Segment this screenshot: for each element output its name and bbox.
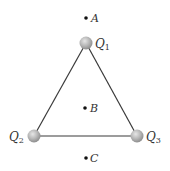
charge-q3-letter: Q: [146, 130, 156, 144]
point-dot-icon: [83, 106, 87, 110]
point-dot-icon: [84, 16, 88, 20]
charge-q1: Q1: [80, 37, 110, 53]
triangle-edges: [34, 43, 137, 136]
point-b-label: B: [89, 102, 98, 115]
point-dot-icon: [84, 156, 88, 160]
charge-q3-subscript: 3: [156, 136, 161, 145]
point-a: A: [84, 12, 99, 25]
charge-sphere-icon: [131, 130, 144, 143]
charge-triangle-diagram: Q1 Q2 Q3 A B C: [0, 0, 170, 171]
point-c-label: C: [90, 152, 99, 165]
charge-q1-letter: Q: [95, 37, 105, 51]
charge-q1-subscript: 1: [105, 43, 110, 52]
edge-q1-q2: [34, 43, 86, 136]
edge-q3-q1: [86, 43, 137, 136]
point-b: B: [83, 102, 98, 115]
charge-q2: Q2: [9, 130, 41, 146]
charge-q2-subscript: 2: [19, 136, 24, 145]
svg-text:Q3: Q3: [146, 130, 161, 145]
charge-sphere-icon: [80, 37, 93, 50]
svg-text:Q1: Q1: [95, 37, 110, 52]
charge-q2-letter: Q: [9, 130, 19, 144]
point-a-label: A: [90, 12, 99, 25]
charge-sphere-icon: [28, 130, 41, 143]
charge-q3: Q3: [131, 130, 161, 146]
svg-text:Q2: Q2: [9, 130, 24, 145]
point-c: C: [84, 152, 99, 165]
